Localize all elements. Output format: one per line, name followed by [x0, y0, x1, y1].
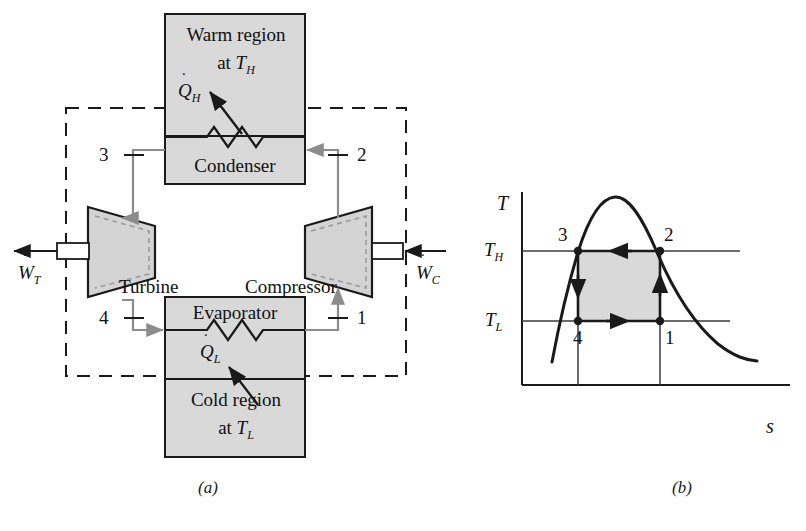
condenser-label: Condenser — [165, 155, 305, 177]
schematic-state-label-1: 1 — [357, 307, 367, 329]
figure-svg — [0, 0, 806, 531]
warm-region-label-line1: Warm region — [176, 24, 296, 46]
pipe-2-compressor-to-condenser — [307, 150, 338, 218]
work-turbine-subscript: T — [34, 273, 41, 287]
heat-in-label: ˙ QL — [200, 341, 220, 367]
heat-out-subscript: H — [192, 91, 201, 105]
heat-in-subscript: L — [214, 352, 221, 366]
cold-region-label-line1: Cold region — [176, 389, 296, 411]
state-point-2 — [656, 247, 664, 255]
ts-diagram-group — [522, 192, 790, 385]
compressor-shaft — [372, 243, 403, 259]
warm-region-at: at — [217, 52, 231, 73]
heat-out-dot-icon: ˙ — [181, 69, 187, 89]
cold-region-temp-sub: L — [247, 428, 254, 442]
cold-region-at: at — [218, 417, 232, 438]
ts-tl-subscript: L — [496, 320, 503, 334]
work-compressor-dot-icon: ˙ — [420, 250, 426, 270]
work-turbine-label: ˙ WT — [18, 262, 41, 288]
ts-state-label-4: 4 — [573, 327, 583, 349]
heat-out-label: ˙ QH — [178, 80, 200, 106]
heat-in-dot-icon: ˙ — [203, 330, 209, 350]
ts-y-axis-label: T — [497, 192, 508, 215]
figure-root: Warm region at TH ˙ QH Condenser Evapora… — [0, 0, 806, 531]
caption-b: (b) — [672, 478, 692, 498]
turbine-shaft — [57, 243, 89, 259]
cycle-shaded-area — [578, 251, 660, 321]
warm-region-temp-symbol: T — [236, 52, 247, 73]
ts-tick-label-tl: TL — [485, 309, 502, 335]
cold-region-temp-symbol: T — [237, 417, 248, 438]
work-compressor-subscript: C — [432, 273, 440, 287]
ts-state-label-2: 2 — [664, 224, 674, 246]
schematic-state-label-3: 3 — [99, 144, 109, 166]
turbine-label: Turbine — [119, 276, 178, 298]
cold-region-label-line2: at TL — [176, 417, 296, 443]
caption-a: (a) — [198, 478, 218, 498]
state-point-1 — [656, 317, 664, 325]
work-compressor-label: ˙ WC — [416, 262, 440, 288]
schematic-state-label-4: 4 — [99, 307, 109, 329]
ts-state-label-3: 3 — [558, 224, 568, 246]
ts-tick-label-th: TH — [484, 239, 503, 265]
ts-state-label-1: 1 — [665, 327, 675, 349]
state-point-3 — [574, 247, 582, 255]
ts-th-symbol: T — [484, 239, 495, 260]
pipe-4-turbine-to-evaporator — [122, 300, 163, 330]
compressor-label: Compressor — [245, 276, 337, 298]
state-point-4 — [574, 317, 582, 325]
schematic-state-label-2: 2 — [357, 144, 367, 166]
ts-x-axis-label: s — [766, 415, 774, 438]
warm-region-temp-sub: H — [246, 63, 255, 77]
ts-tl-symbol: T — [485, 309, 496, 330]
work-turbine-dot-icon: ˙ — [22, 250, 28, 270]
warm-region-label-line2: at TH — [176, 52, 296, 78]
ts-th-subscript: H — [495, 250, 504, 264]
pipe-3-condenser-to-turbine — [122, 150, 165, 218]
evaporator-label: Evaporator — [165, 302, 305, 324]
